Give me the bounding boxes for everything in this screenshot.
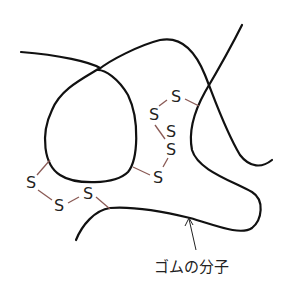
bond-2: [159, 100, 167, 106]
sulfur-atom: S: [149, 105, 159, 124]
sulfur-atom: S: [83, 184, 93, 203]
bond-9: [96, 197, 110, 209]
sulfur-atom: S: [26, 173, 36, 192]
rubber-molecule-label: ゴムの分子: [154, 258, 229, 276]
bond-3: [155, 125, 165, 139]
bond-5: [133, 167, 150, 175]
bond-1: [185, 99, 199, 106]
rubber-molecule-diagram: S S S S S S S S ゴムの分子: [0, 0, 292, 293]
rubber-chain-long-upper: [21, 39, 272, 182]
bond-6: [37, 160, 50, 175]
sulfur-atom: S: [153, 168, 163, 187]
sulfur-atom: S: [171, 87, 181, 106]
sulfur-atom: S: [54, 196, 64, 215]
bond-7: [38, 190, 52, 200]
bond-4: [163, 158, 168, 167]
sulfur-atom: S: [166, 122, 176, 141]
bond-8: [68, 197, 79, 203]
sulfur-atom: S: [166, 140, 176, 159]
